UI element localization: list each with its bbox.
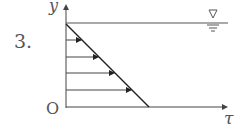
shear-stress-diagram bbox=[0, 0, 240, 134]
